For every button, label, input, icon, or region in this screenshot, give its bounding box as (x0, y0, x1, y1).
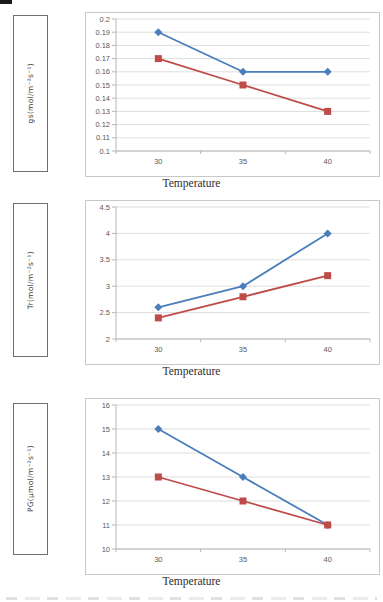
square-marker (155, 474, 162, 481)
tr-chart-frame: 4.543.532.52303540 (85, 200, 380, 365)
gs-ytick-label: 0.16 (95, 67, 110, 76)
gs-ytick-label: 0.18 (95, 41, 110, 50)
Tr-xtick-label: 40 (323, 345, 331, 354)
square-marker (155, 55, 162, 62)
pg-yaxis-label: PG(μmol/m⁻²s⁻¹) (26, 445, 35, 512)
gs-ytick-label: 0.2 (100, 15, 110, 24)
scan-artifact-mark (0, 0, 12, 4)
pg-ylabel-box: PG(μmol/m⁻²s⁻¹) (13, 403, 48, 555)
gs-ylabel-box: gs(mol/m⁻²s⁻¹) (13, 15, 48, 172)
gs-yaxis-label: gs(mol/m⁻²s⁻¹) (26, 63, 35, 123)
gs-ytick-label: 0.17 (95, 54, 110, 63)
square-marker (155, 314, 162, 321)
square-marker (324, 522, 331, 529)
square-marker (324, 108, 331, 115)
PG-ytick-label: 13 (102, 473, 110, 482)
diamond-marker (154, 28, 162, 36)
Tr-xtick-label: 30 (154, 345, 162, 354)
Tr-gridlines (112, 207, 370, 339)
gs-chart-canvas: 0.20.190.180.170.160.150.140.130.120.110… (86, 13, 377, 174)
gs-xtick-label: 40 (323, 157, 331, 166)
gs-xaxis-title: Temperature (0, 177, 383, 189)
PG-ytick-label: 16 (102, 401, 110, 410)
square-marker (240, 82, 247, 89)
gs-ytick-label: 0.14 (95, 94, 110, 103)
gs-chart-frame: 0.20.190.180.170.160.150.140.130.120.110… (85, 12, 380, 177)
pg-xaxis-title: Temperature (0, 575, 383, 587)
PG-ytick-label: 12 (102, 497, 110, 506)
gs-blue-diamond-series (154, 28, 331, 76)
tr-ylabel-box: Tr(mol/m⁻²s⁻¹) (13, 203, 48, 357)
Tr-ytick-label: 4 (106, 229, 110, 238)
PG-ytick-label: 14 (102, 449, 110, 458)
gs-xtick-label: 35 (239, 157, 247, 166)
Tr-ytick-label: 3 (106, 282, 110, 291)
diamond-marker (324, 68, 332, 76)
square-marker (240, 498, 247, 505)
diamond-marker (239, 473, 247, 481)
tr-yaxis-label: Tr(mol/m⁻²s⁻¹) (26, 251, 35, 309)
diamond-marker (239, 68, 247, 76)
Tr-ytick-label: 2.5 (100, 308, 110, 317)
pg-chart-frame: 16151413121110303540 (85, 398, 380, 575)
tr-chart-canvas: 4.543.532.52303540 (86, 201, 377, 362)
gs-xtick-label: 30 (154, 157, 162, 166)
square-marker (240, 293, 247, 300)
Tr-ytick-label: 3.5 (100, 255, 110, 264)
gs-ytick-label: 0.13 (95, 107, 110, 116)
Tr-ytick-label: 4.5 (100, 203, 110, 212)
PG-xtick-label: 30 (154, 555, 162, 564)
gs-ytick-label: 0.1 (100, 147, 110, 156)
gs-ytick-label: 0.15 (95, 81, 110, 90)
square-marker (324, 272, 331, 279)
pg-chart-canvas: 16151413121110303540 (86, 399, 377, 572)
Tr-ytick-label: 2 (106, 335, 110, 344)
cutoff-caption-remnant (6, 597, 377, 600)
Tr-red-square-series (155, 272, 331, 321)
tr-xaxis-title: Temperature (0, 365, 383, 377)
diamond-marker (154, 425, 162, 433)
gs-ytick-label: 0.12 (95, 120, 110, 129)
Tr-xtick-label: 35 (239, 345, 247, 354)
scanned-page: gs(mol/m⁻²s⁻¹) 0.20.190.180.170.160.150.… (0, 0, 383, 602)
diamond-marker (154, 303, 162, 311)
PG-xtick-label: 40 (323, 555, 331, 564)
PG-ytick-label: 15 (102, 425, 110, 434)
gs-ytick-label: 0.19 (95, 28, 110, 37)
PG-ytick-label: 11 (102, 521, 110, 530)
gs-ytick-label: 0.11 (96, 133, 110, 142)
PG-xtick-label: 35 (239, 555, 247, 564)
PG-ytick-label: 10 (102, 545, 110, 554)
